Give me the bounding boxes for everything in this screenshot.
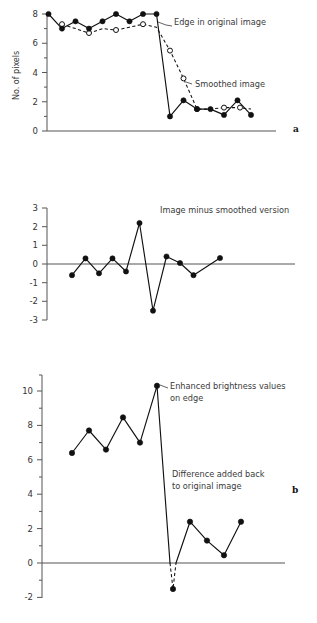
panel-b: 3 2 1 0 -1 -2 -3 Image minus xyxy=(0,180,317,345)
panel-c-ytick-10: 10 xyxy=(22,386,33,396)
panel-letter-a: a xyxy=(293,124,299,134)
panel-b-series-difference xyxy=(72,223,220,311)
panel-c-plot: 10 8 6 4 2 0 -2 xyxy=(0,355,317,623)
panel-b-ytick-2: 2 xyxy=(33,222,38,232)
panel-c-annotation-difference-2: to original image xyxy=(172,481,242,491)
panel-a-leader-edge xyxy=(158,22,172,26)
panel-a-ytick-2: 2 xyxy=(33,97,38,107)
figure-unsharp-masking: 0 2 4 6 8 No. of pixels xyxy=(0,0,317,623)
panel-a-annotation-smoothed: Smoothed image xyxy=(195,79,265,89)
panel-c-y-ticks xyxy=(37,375,42,597)
panel-c-annotation-enhanced-1: Enhanced brightness values xyxy=(170,381,286,391)
panel-a-ytick-8: 8 xyxy=(33,9,38,19)
panel-b-plot: 3 2 1 0 -1 -2 -3 Image minus xyxy=(0,180,317,345)
panel-b-ytick-m2: -2 xyxy=(30,296,38,306)
panel-b-annotation-difference: Image minus smoothed version xyxy=(160,205,289,215)
panel-a-annotation-edge: Edge in original image xyxy=(174,17,266,27)
panel-b-ytick-1: 1 xyxy=(33,240,38,250)
panel-c-annotation-enhanced-2: on edge xyxy=(170,393,203,403)
panel-a-ytick-0: 0 xyxy=(33,126,38,136)
panel-a-plot: 0 2 4 6 8 No. of pixels xyxy=(0,0,317,175)
panel-c: 10 8 6 4 2 0 -2 xyxy=(0,355,317,623)
panel-c-ytick-8: 8 xyxy=(28,420,33,430)
panel-c-ytick-0: 0 xyxy=(28,558,33,568)
panel-a: 0 2 4 6 8 No. of pixels xyxy=(0,0,317,175)
panel-b-y-ticks xyxy=(42,208,47,320)
panel-c-ytick-4: 4 xyxy=(28,489,33,499)
panel-a-original-markers xyxy=(46,11,254,119)
panel-a-ytick-4: 4 xyxy=(33,68,38,78)
panel-c-ytick-2: 2 xyxy=(28,524,33,534)
panel-a-smoothed-markers xyxy=(60,22,243,112)
panel-b-ytick-m1: -1 xyxy=(30,278,38,288)
panel-b-ytick-0: 0 xyxy=(33,259,38,269)
panel-c-ytick-m2: -2 xyxy=(25,592,33,602)
panel-a-y-ticks xyxy=(42,14,47,131)
panel-a-leader-smoothed xyxy=(186,82,192,84)
panel-a-ylabel: No. of pixels xyxy=(12,51,21,100)
panel-c-series-dip xyxy=(170,563,176,589)
panel-c-series-enhanced xyxy=(72,386,170,563)
panel-a-ytick-6: 6 xyxy=(33,38,38,48)
panel-c-leader-enhanced xyxy=(160,385,168,388)
panel-b-ytick-3: 3 xyxy=(33,203,38,213)
panel-a-series-smoothed xyxy=(62,24,251,109)
panel-c-annotation-difference-1: Difference added back xyxy=(172,469,265,479)
panel-b-ytick-m3: -3 xyxy=(30,315,38,325)
panel-c-ytick-6: 6 xyxy=(28,455,33,465)
